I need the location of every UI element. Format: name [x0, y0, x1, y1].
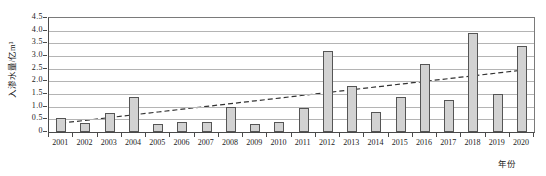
x-tick-label: 2013 — [343, 138, 359, 148]
x-tick-label: 2001 — [52, 138, 68, 148]
gridline — [49, 119, 534, 120]
bar — [396, 97, 406, 132]
x-tick-label: 2020 — [513, 138, 529, 148]
y-tick-mark — [43, 80, 47, 81]
x-tick-label: 2007 — [198, 138, 214, 148]
x-tick-label: 2003 — [101, 138, 117, 148]
bar — [250, 124, 260, 132]
bar — [347, 86, 357, 132]
x-tick-mark — [291, 133, 292, 137]
bar — [105, 113, 115, 132]
x-tick-mark — [412, 133, 413, 137]
y-tick-label: 2.0 — [32, 76, 43, 84]
x-tick-label: 2006 — [173, 138, 189, 148]
y-tick-mark — [43, 93, 47, 94]
bar — [80, 123, 90, 132]
y-tick-mark — [43, 118, 47, 119]
y-tick-mark — [43, 17, 47, 18]
x-tick-mark — [194, 133, 195, 137]
bar — [420, 64, 430, 132]
x-tick-mark — [339, 133, 340, 137]
x-tick-mark — [218, 133, 219, 137]
x-tick-mark — [315, 133, 316, 137]
x-tick-mark — [145, 133, 146, 137]
gridline — [49, 81, 534, 82]
gridline — [49, 69, 534, 70]
x-tick-label: 2014 — [367, 138, 383, 148]
bar — [202, 122, 212, 132]
gridline — [49, 43, 534, 44]
bar — [444, 100, 454, 132]
x-tick-label: 2002 — [76, 138, 92, 148]
x-tick-mark — [533, 133, 534, 137]
x-tick-label: 2017 — [440, 138, 456, 148]
x-tick-mark — [121, 133, 122, 137]
x-tick-label: 2012 — [319, 138, 335, 148]
x-tick-label: 2004 — [125, 138, 141, 148]
x-tick-label: 2015 — [392, 138, 408, 148]
bar — [274, 122, 284, 132]
x-tick-label: 2005 — [149, 138, 165, 148]
y-tick-label: 0.5 — [32, 114, 43, 122]
x-tick-mark — [169, 133, 170, 137]
bar — [153, 124, 163, 132]
x-tick-mark — [436, 133, 437, 137]
y-tick-mark — [43, 131, 47, 132]
bar — [371, 112, 381, 132]
y-tick-mark — [43, 106, 47, 107]
x-tick-mark — [242, 133, 243, 137]
x-tick-label: 2016 — [416, 138, 432, 148]
y-tick-label: 3.5 — [32, 38, 43, 46]
y-tick-mark — [43, 30, 47, 31]
bar — [177, 122, 187, 132]
x-tick-label: 2009 — [246, 138, 262, 148]
y-axis-ticks: 00.51.01.52.02.53.03.54.04.5 — [0, 0, 46, 176]
gridline — [49, 94, 534, 95]
bar — [56, 118, 66, 132]
x-tick-label: 2011 — [295, 138, 311, 148]
x-tick-mark — [388, 133, 389, 137]
bar — [226, 107, 236, 132]
bar — [323, 51, 333, 132]
x-axis-ticks: 2001200220032004200520062007200820092010… — [48, 133, 535, 173]
x-tick-label: 2010 — [270, 138, 286, 148]
x-tick-mark — [485, 133, 486, 137]
gridline — [49, 107, 534, 108]
x-tick-mark — [97, 133, 98, 137]
x-tick-mark — [460, 133, 461, 137]
bar — [517, 46, 527, 132]
x-tick-mark — [266, 133, 267, 137]
x-tick-label: 2008 — [222, 138, 238, 148]
y-tick-label: 1.0 — [32, 102, 43, 110]
y-tick-mark — [43, 55, 47, 56]
gridline — [49, 56, 534, 57]
trend-line — [49, 18, 534, 132]
chart-figure: 入渗水量/亿m³ 00.51.01.52.02.53.03.54.04.5 20… — [0, 0, 546, 176]
x-tick-label: 2019 — [489, 138, 505, 148]
x-tick-label: 2018 — [464, 138, 480, 148]
y-tick-label: 2.5 — [32, 64, 43, 72]
bar — [468, 33, 478, 132]
plot-area — [48, 17, 535, 133]
x-axis-title: 年份 — [498, 157, 516, 169]
x-tick-mark — [72, 133, 73, 137]
y-tick-label: 4.0 — [32, 26, 43, 34]
y-tick-label: 3.0 — [32, 51, 43, 59]
bar — [129, 97, 139, 132]
bar — [299, 108, 309, 132]
x-tick-mark — [509, 133, 510, 137]
x-tick-mark — [48, 133, 49, 137]
y-tick-mark — [43, 68, 47, 69]
gridline — [49, 31, 534, 32]
x-tick-mark — [363, 133, 364, 137]
y-tick-mark — [43, 42, 47, 43]
y-tick-label: 1.5 — [32, 89, 43, 97]
y-tick-label: 4.5 — [32, 13, 43, 21]
bar — [493, 94, 503, 132]
